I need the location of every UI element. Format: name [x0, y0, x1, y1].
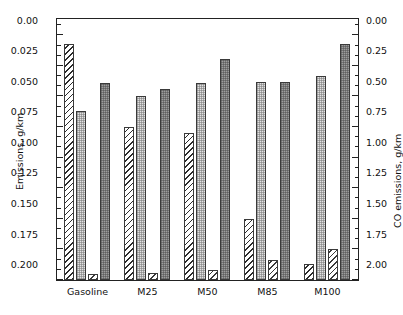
axis-tick-minor	[57, 75, 61, 76]
y-tick-label-left: 0.100	[11, 138, 38, 148]
bar-m100-series-2-light	[316, 76, 327, 280]
plot-frame	[56, 18, 359, 281]
axis-tick-major	[57, 248, 63, 249]
axis-tick-minor	[355, 177, 359, 178]
axis-tick-minor	[355, 146, 359, 147]
axis-tick-minor	[57, 136, 61, 137]
axis-tick-major	[57, 126, 63, 127]
bar-gasoline-series-2-light	[76, 111, 87, 280]
bar-m85-series-3-crosshatch	[268, 260, 279, 280]
y-tick-label-left: 0.075	[11, 107, 38, 117]
bar-m25-series-1-hatched	[124, 127, 135, 280]
axis-tick-minor	[57, 116, 61, 117]
y-tick-label-left: 0.150	[11, 199, 38, 209]
y-tick-label-left: 0.175	[11, 230, 38, 240]
bar-gasoline-series-1-hatched	[64, 44, 75, 280]
y-tick-label-right: 0.00	[366, 16, 387, 26]
bar-m50-series-2-light	[196, 83, 207, 280]
bar-m50-series-4-dark	[220, 59, 231, 280]
y-tick-label-right: 2.00	[366, 260, 387, 270]
axis-tick-minor	[57, 85, 61, 86]
y-tick-label-right: 0.75	[366, 107, 387, 117]
axis-tick-major	[352, 95, 358, 96]
axis-tick-major	[57, 34, 63, 35]
bar-m100-series-4-dark	[340, 44, 351, 280]
y-tick-label-left: 0.025	[11, 46, 38, 56]
axis-tick-minor	[355, 228, 359, 229]
bar-m50-series-3-crosshatch	[208, 270, 219, 280]
axis-tick-minor	[57, 106, 61, 107]
y-tick-label-right: 0.25	[366, 46, 387, 56]
axis-tick-minor	[355, 55, 359, 56]
bar-gasoline-series-4-dark	[100, 83, 111, 280]
axis-tick-minor	[57, 238, 61, 239]
axis-tick-major	[57, 157, 63, 158]
bar-m85-series-2-light	[256, 82, 267, 280]
axis-tick-minor	[57, 259, 61, 260]
axis-tick-minor	[355, 259, 359, 260]
axis-tick-minor	[355, 85, 359, 86]
axis-tick-minor	[355, 197, 359, 198]
bar-m25-series-4-dark	[160, 89, 171, 280]
bar-m100-series-1-hatched	[304, 264, 315, 280]
y-tick-label-right: 1.25	[366, 168, 387, 178]
axis-tick-minor	[355, 167, 359, 168]
y-tick-label-left: 0.200	[11, 260, 38, 270]
bar-m50-series-1-hatched	[184, 133, 195, 280]
axis-tick-minor	[57, 167, 61, 168]
axis-tick-minor	[57, 45, 61, 46]
axis-tick-major	[352, 157, 358, 158]
axis-tick-minor	[355, 106, 359, 107]
bar-m25-series-3-crosshatch	[148, 273, 159, 280]
axis-tick-major	[352, 248, 358, 249]
bar-gasoline-series-3-crosshatch	[88, 274, 99, 280]
axis-tick-minor	[355, 269, 359, 270]
y-axis-title-right: CO emissions, g/km	[392, 134, 403, 228]
axis-tick-major	[352, 218, 358, 219]
axis-tick-major	[352, 279, 358, 280]
y-tick-label-right: 1.75	[366, 230, 387, 240]
axis-tick-major	[57, 187, 63, 188]
axis-tick-major	[352, 187, 358, 188]
axis-tick-major	[57, 218, 63, 219]
axis-tick-minor	[57, 197, 61, 198]
x-tick-label-m50: M50	[197, 286, 217, 297]
y-tick-label-right: 1.50	[366, 199, 387, 209]
axis-tick-major	[57, 279, 63, 280]
axis-tick-minor	[355, 45, 359, 46]
axis-tick-minor	[355, 238, 359, 239]
axis-tick-major	[352, 65, 358, 66]
axis-tick-minor	[57, 208, 61, 209]
axis-tick-major	[352, 126, 358, 127]
axis-tick-minor	[57, 55, 61, 56]
y-tick-label-right: 0.50	[366, 77, 387, 87]
plot-area	[57, 19, 358, 280]
axis-tick-minor	[57, 177, 61, 178]
bar-m85-series-4-dark	[280, 82, 291, 280]
y-tick-label-left: 0.00	[17, 16, 38, 26]
axis-tick-minor	[57, 24, 61, 25]
y-tick-label-left: 0.050	[11, 77, 38, 87]
y-tick-label-left: 0.125	[11, 168, 38, 178]
bar-m25-series-2-light	[136, 96, 147, 280]
x-tick-label-m100: M100	[314, 286, 340, 297]
axis-tick-major	[352, 34, 358, 35]
x-tick-label-m25: M25	[137, 286, 157, 297]
axis-tick-minor	[355, 116, 359, 117]
axis-tick-minor	[355, 75, 359, 76]
x-tick-label-gasoline: Gasoline	[67, 286, 108, 297]
axis-tick-minor	[355, 208, 359, 209]
axis-tick-major	[57, 95, 63, 96]
axis-tick-minor	[355, 24, 359, 25]
bar-m100-series-3-crosshatch	[328, 249, 339, 280]
bar-m85-series-1-hatched	[244, 219, 255, 280]
axis-tick-minor	[355, 136, 359, 137]
axis-tick-minor	[57, 228, 61, 229]
axis-tick-minor	[57, 146, 61, 147]
y-tick-label-right: 1.00	[366, 138, 387, 148]
x-tick-label-m85: M85	[257, 286, 277, 297]
axis-tick-major	[57, 65, 63, 66]
axis-tick-minor	[57, 269, 61, 270]
